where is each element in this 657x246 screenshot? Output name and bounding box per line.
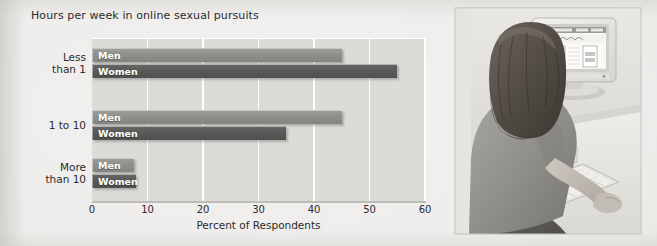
x-tick-label-0: 0 bbox=[77, 204, 107, 215]
bar-row: Women bbox=[92, 64, 425, 78]
category-label-2: 1 to 10 bbox=[24, 119, 86, 132]
bar-label-men: Men bbox=[98, 111, 121, 125]
bar-women-3: Women bbox=[92, 174, 136, 188]
bar-men-2: Men bbox=[92, 110, 342, 124]
bar-men-1: Men bbox=[92, 48, 342, 62]
bar-label-women: Women bbox=[98, 175, 138, 189]
x-tick-label-40: 40 bbox=[299, 204, 329, 215]
bar-row: Women bbox=[92, 174, 425, 188]
figure-panel: Hours per week in online sexual pursuits… bbox=[0, 0, 657, 246]
x-tick-label-20: 20 bbox=[188, 204, 218, 215]
bar-women-1: Women bbox=[92, 64, 397, 78]
bar-row: Women bbox=[92, 126, 425, 140]
x-tick-label-10: 10 bbox=[133, 204, 163, 215]
x-axis-label: Percent of Respondents bbox=[92, 219, 425, 231]
bar-label-men: Men bbox=[98, 159, 121, 173]
x-tick-label-60: 60 bbox=[410, 204, 440, 215]
bar-row: Men bbox=[92, 110, 425, 124]
x-axis-line bbox=[92, 201, 426, 203]
x-tick-label-30: 30 bbox=[244, 204, 274, 215]
category-label-1: Less than 1 bbox=[24, 51, 86, 76]
bar-women-2: Women bbox=[92, 126, 286, 140]
bar-chart: Hours per week in online sexual pursuits… bbox=[0, 0, 436, 246]
bar-label-men: Men bbox=[98, 49, 121, 63]
bar-label-women: Women bbox=[98, 65, 138, 79]
bar-label-women: Women bbox=[98, 127, 138, 141]
bar-row: Men bbox=[92, 158, 425, 172]
category-label-3: More than 10 bbox=[24, 161, 86, 186]
bar-men-3: Men bbox=[92, 158, 134, 172]
x-tick-label-50: 50 bbox=[355, 204, 385, 215]
bar-row: Men bbox=[92, 48, 425, 62]
woman-at-computer-photo bbox=[455, 8, 641, 234]
